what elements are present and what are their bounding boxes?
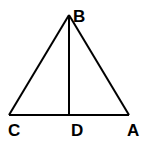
label-c: C [8,121,20,140]
label-a: A [127,121,139,140]
segment-ba [69,15,129,115]
label-d: D [71,121,83,140]
triangle-diagram: B C D A [0,0,149,145]
label-b: B [73,7,85,26]
segment-bc [9,15,69,115]
